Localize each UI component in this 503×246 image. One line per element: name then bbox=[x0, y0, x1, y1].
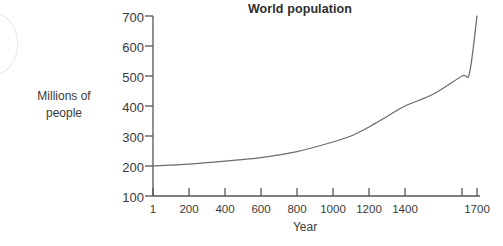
chart-figure: World population Millions of people Year… bbox=[0, 0, 503, 246]
plot-area bbox=[0, 0, 503, 246]
x-axis-ticks bbox=[153, 188, 477, 196]
axis-lines bbox=[153, 16, 480, 196]
y-axis-ticks bbox=[145, 16, 153, 196]
population-line-series bbox=[153, 16, 477, 166]
